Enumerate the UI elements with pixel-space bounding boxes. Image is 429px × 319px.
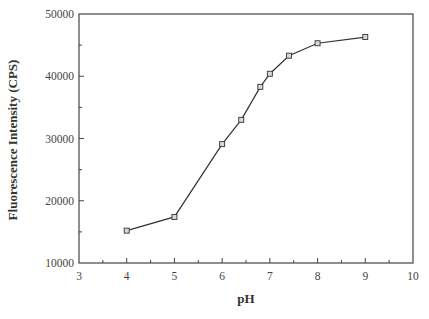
y-tick-label: 40000 <box>45 70 74 82</box>
y-tick-label: 10000 <box>45 257 74 269</box>
data-point-marker <box>172 214 177 219</box>
y-tick-label: 20000 <box>45 195 74 207</box>
x-tick-label: 8 <box>315 270 321 282</box>
x-axis-title: pH <box>237 291 254 306</box>
data-point-marker <box>267 71 272 76</box>
data-point-marker <box>124 228 129 233</box>
series-line <box>127 37 366 231</box>
data-point-marker <box>220 142 225 147</box>
data-point-marker <box>363 35 368 40</box>
x-tick-label: 3 <box>76 270 82 282</box>
data-point-marker <box>239 117 244 122</box>
x-tick-label: 5 <box>172 270 178 282</box>
data-point-marker <box>315 41 320 46</box>
y-tick-label: 50000 <box>45 8 74 20</box>
y-tick-label: 30000 <box>45 133 74 145</box>
y-axis-title: Fluorescence Intensity (CPS) <box>5 60 20 221</box>
x-axis-ticks: 345678910 <box>76 258 419 282</box>
data-point-marker <box>286 53 291 58</box>
data-point-marker <box>258 84 263 89</box>
x-tick-label: 7 <box>267 270 273 282</box>
x-tick-label: 9 <box>362 270 368 282</box>
plot-border <box>79 14 413 263</box>
x-tick-label: 10 <box>407 270 419 282</box>
y-axis-ticks: 1000020000300004000050000 <box>45 8 84 269</box>
x-tick-label: 4 <box>124 270 130 282</box>
x-tick-label: 6 <box>219 270 225 282</box>
line-chart: 1000020000300004000050000 345678910 pH F… <box>0 0 429 319</box>
data-series <box>124 35 368 234</box>
plot-frame <box>79 14 413 263</box>
